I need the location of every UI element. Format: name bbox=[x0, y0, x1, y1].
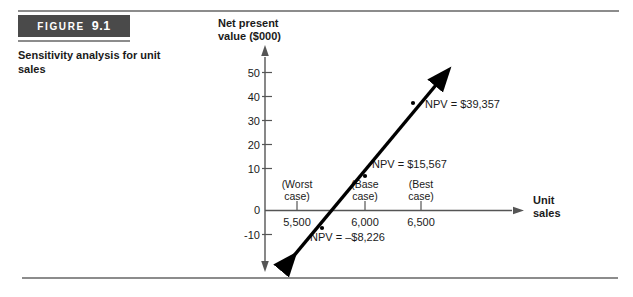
chart-canvas bbox=[0, 0, 633, 297]
sensitivity-chart: Net present value ($000) Unit sales 50 4… bbox=[0, 0, 633, 297]
y-axis-arrow-down bbox=[261, 261, 269, 272]
sensitivity-trend-line bbox=[292, 73, 446, 258]
data-point-worst-case bbox=[320, 226, 324, 230]
data-point-base-case bbox=[363, 174, 367, 178]
x-axis-arrow bbox=[513, 207, 524, 215]
y-axis-arrow-up bbox=[261, 45, 269, 56]
data-point-best-case bbox=[411, 101, 415, 105]
